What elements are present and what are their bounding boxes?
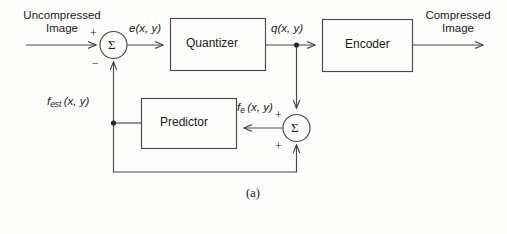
adder-one-minus-sign: −: [92, 56, 99, 71]
dpcm-encoder-block-diagram: Σ Σ + − + + Uncompressed Image Compresse…: [0, 0, 507, 234]
signal-error-args: (x, y): [135, 22, 161, 34]
compressed-image-line2: Image: [414, 22, 502, 35]
signal-reconstructed-args: (x, y): [247, 101, 273, 113]
adder-two-sigma: Σ: [291, 120, 299, 136]
predictor-label: Predictor: [160, 116, 208, 129]
signal-estimate-sub: est: [50, 99, 61, 109]
encoder-label: Encoder: [345, 38, 390, 51]
uncompressed-image-line2: Image: [16, 22, 108, 35]
junction-dot-predictor-bus: [111, 120, 116, 125]
compressed-image-line1: Compressed: [414, 9, 502, 22]
signal-quantized-label: q(x, y): [271, 22, 303, 35]
quantizer-label: Quantizer: [186, 37, 238, 50]
signal-estimate-args: (x, y): [64, 95, 90, 107]
uncompressed-image-label: Uncompressed Image: [16, 9, 108, 35]
adder-two-plus-sign-left: +: [275, 108, 282, 123]
adder-two-plus-sign-bottom: +: [275, 139, 282, 154]
signal-reconstructed-sub: e: [240, 105, 245, 115]
compressed-image-label: Compressed Image: [414, 9, 502, 35]
figure-caption: (a): [246, 186, 260, 201]
adder-one-sigma: Σ: [108, 37, 116, 53]
signal-reconstructed-label: fe (x, y): [237, 101, 273, 114]
junction-dot-quantized: [294, 42, 299, 47]
signal-error-label: e(x, y): [129, 22, 161, 35]
uncompressed-image-line1: Uncompressed: [16, 9, 108, 22]
signal-quantized-args: (x, y): [277, 22, 303, 34]
signal-estimate-label: fest (x, y): [47, 95, 89, 108]
